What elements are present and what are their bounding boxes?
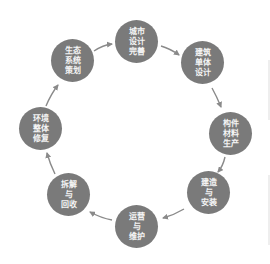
node-label-line: 构件 (223, 119, 239, 129)
node-label-line: 建筑 (195, 48, 211, 58)
node-label-line: 城市 (129, 27, 145, 37)
node-environment: 环境 整体 修复 (19, 107, 62, 150)
node-label-line: 与 (133, 222, 141, 232)
node-label-line: 安装 (201, 198, 217, 208)
node-label-line: 与 (65, 190, 73, 200)
node-construction: 建造 与 安装 (187, 171, 230, 214)
arrow-operation-to-dismantle (90, 212, 112, 220)
node-label-line: 拆解 (61, 180, 77, 190)
node-label-line: 设计 (195, 68, 211, 78)
arrow-construction-to-operation (163, 209, 184, 218)
node-label-line: 运营 (129, 212, 145, 222)
node-label-line: 生态 (65, 46, 81, 56)
arrow-environment-to-ecosystem (46, 85, 58, 106)
arrow-building-design-to-component-production (212, 88, 221, 107)
node-label-line: 生产 (223, 139, 239, 149)
node-urban-design: 城市 设计 完善 (115, 20, 158, 63)
lifecycle-cycle-diagram: 城市 设计 完善 建筑 单体 设计 构件 材料 生产 建造 与 安装 运营 与 … (0, 0, 270, 264)
node-label-line: 修复 (33, 134, 49, 144)
node-building-design: 建筑 单体 设计 (181, 41, 224, 84)
arrow-dismantle-to-environment (47, 153, 55, 174)
right-edge-divider (268, 60, 270, 120)
node-label-line: 回收 (61, 200, 77, 210)
node-label-line: 维护 (129, 232, 145, 242)
arrow-urban-design-to-building-design (161, 46, 179, 55)
node-dismantle: 拆解 与 回收 (47, 173, 90, 216)
node-ecosystem: 生态 系统 策划 (51, 39, 94, 82)
node-label-line: 完善 (129, 47, 145, 57)
arrow-component-production-to-construction (218, 157, 225, 172)
node-label-line: 单体 (195, 58, 211, 68)
node-label-line: 整体 (33, 124, 49, 134)
node-operation: 运营 与 维护 (115, 205, 158, 248)
node-label-line: 环境 (33, 114, 49, 124)
right-edge-divider (268, 175, 270, 245)
node-component-production: 构件 材料 生产 (209, 112, 252, 155)
node-label-line: 策划 (65, 66, 81, 76)
arrow-ecosystem-to-urban-design (94, 44, 112, 51)
node-label-line: 设计 (129, 37, 145, 47)
node-label-line: 与 (205, 188, 213, 198)
node-label-line: 建造 (201, 178, 217, 188)
node-label-line: 系统 (65, 56, 81, 66)
node-label-line: 材料 (223, 129, 239, 139)
